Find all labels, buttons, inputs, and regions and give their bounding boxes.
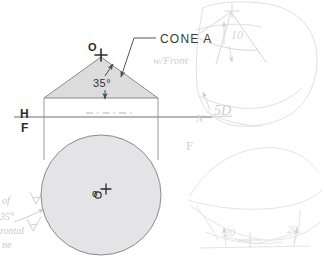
horizontal-plane-label: H: [20, 108, 29, 120]
apex-point-label: O: [88, 42, 97, 53]
sketch-5d-label: 5D: [214, 104, 231, 118]
front-view-marker-label: N: [196, 113, 203, 124]
margin-note-frontal-label: rontal: [0, 226, 24, 236]
margin-note-line-label: ne: [2, 240, 11, 250]
margin-note-angle-label: 35°: [0, 212, 14, 222]
sketch-dim-left-label: 20: [224, 227, 235, 238]
margin-note-of-label: of: [2, 196, 10, 206]
cone-a-title-label: CONE A: [160, 33, 213, 45]
cone-a-leader-line: [121, 38, 156, 77]
sketch-frontal-label: F: [186, 139, 193, 152]
with-front-note-label: w/Front: [153, 55, 188, 66]
engineering-drawing-canvas: CONE A 35° O o H F w/Front N 5D F 10 20 …: [0, 0, 324, 260]
pencil-center-mark-bottom: [238, 232, 262, 248]
angle-dimension-label: 35°: [93, 78, 111, 89]
pencil-sketch-bottom: [188, 148, 322, 248]
top-view-center-label: o: [92, 189, 98, 199]
frontal-plane-label: F: [21, 122, 28, 134]
sketch-dim-top-label: 10: [231, 29, 243, 41]
sketch-dim-right-label: 20: [287, 224, 298, 235]
